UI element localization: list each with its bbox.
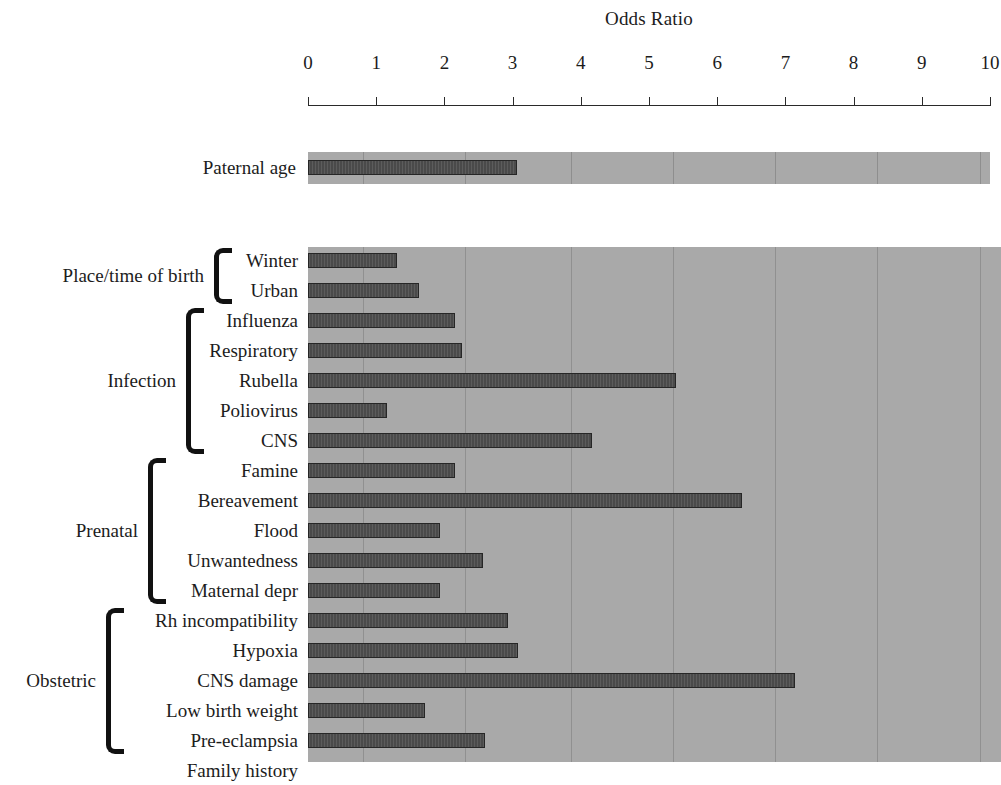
gridline: [775, 152, 776, 184]
paternal-age-label: Paternal age: [6, 152, 296, 184]
bar-pre-eclampsia: [308, 733, 485, 748]
x-axis-tick-label: 4: [561, 52, 601, 74]
bar-unwantedness: [308, 553, 483, 568]
bar-urban: [308, 283, 419, 298]
group-label-place-time-of-birth: Place/time of birth: [63, 265, 204, 287]
x-axis-tick-label: 8: [834, 52, 874, 74]
x-axis-tick: [376, 97, 377, 106]
gridline: [673, 152, 674, 184]
main-plot-area: [308, 247, 1001, 762]
x-axis-tick: [854, 97, 855, 106]
gridline: [571, 152, 572, 184]
gridline: [980, 247, 981, 762]
chart-title: Odds Ratio: [308, 8, 990, 30]
x-axis-tick: [513, 97, 514, 106]
x-axis-tick-label: 9: [902, 52, 942, 74]
bar-paternal-age: [308, 160, 517, 175]
x-axis-tick: [444, 97, 445, 106]
gridline: [877, 247, 878, 762]
bar-hypoxia: [308, 643, 518, 658]
x-axis-tick: [922, 97, 923, 106]
group-bracket-column: Place/time of birthInfectionPrenatalObst…: [0, 247, 304, 762]
gridline: [980, 152, 981, 184]
bar-cns-damage: [308, 673, 795, 688]
bar-winter: [308, 253, 397, 268]
paternal-age-plot-area: [308, 152, 990, 184]
x-axis-tick-label: 5: [629, 52, 669, 74]
x-axis-tick: [990, 97, 991, 106]
x-axis-tick-label: 10: [970, 52, 1001, 74]
group-label-obstetric: Obstetric: [26, 670, 96, 692]
x-axis-tick-label: 0: [288, 52, 328, 74]
group-label-infection: Infection: [107, 370, 176, 392]
x-axis-tick: [649, 97, 650, 106]
bar-influenza: [308, 313, 455, 328]
gridline: [877, 152, 878, 184]
bar-rubella: [308, 373, 676, 388]
x-axis-tick: [785, 97, 786, 106]
group-bracket-obstetric: [106, 608, 124, 754]
bar-low-birth-weight: [308, 703, 425, 718]
bar-bereavement: [308, 493, 742, 508]
x-axis: 012345678910: [0, 52, 1001, 112]
x-axis-tick-label: 2: [424, 52, 464, 74]
group-bracket-place-time-of-birth: [214, 248, 232, 304]
x-axis-tick-label: 6: [697, 52, 737, 74]
bar-maternal-depr: [308, 583, 440, 598]
x-axis-tick: [717, 97, 718, 106]
bar-poliovirus: [308, 403, 387, 418]
x-axis-tick: [308, 97, 309, 106]
group-bracket-infection: [186, 308, 204, 454]
bar-respiratory: [308, 343, 462, 358]
bar-flood: [308, 523, 440, 538]
x-axis-tick-label: 1: [356, 52, 396, 74]
x-axis-tick: [581, 97, 582, 106]
paternal-age-label-area: Paternal age: [0, 152, 296, 184]
bar-famine: [308, 463, 455, 478]
group-bracket-prenatal: [148, 458, 166, 604]
x-axis-tick-label: 3: [493, 52, 533, 74]
group-label-prenatal: Prenatal: [76, 520, 138, 542]
bar-rh-incompatibility: [308, 613, 508, 628]
x-axis-tick-label: 7: [765, 52, 805, 74]
bar-cns: [308, 433, 592, 448]
